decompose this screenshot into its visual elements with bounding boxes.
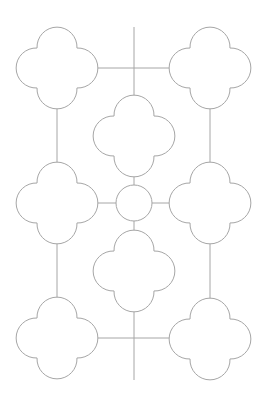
quatrefoil-center-bottom [93,230,175,312]
quatrefoil-diagram [0,0,264,403]
quatrefoil-bottom-right [169,298,251,380]
quatrefoil-top-left [16,27,98,109]
quatrefoil-top-right [169,27,251,109]
center-circle-shape [116,185,152,221]
quatrefoil-middle-left [16,162,98,244]
quatrefoil-center-top [93,95,175,177]
quatrefoil-middle-right [169,162,251,244]
quatrefoil-bottom-left [16,297,98,379]
